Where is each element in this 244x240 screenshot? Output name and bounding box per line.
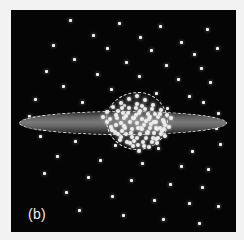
halo-star <box>92 34 95 37</box>
halo-star <box>216 47 219 50</box>
halo-star <box>34 98 37 101</box>
halo-star <box>118 22 121 25</box>
bulge-star <box>110 128 114 132</box>
bulge-star <box>105 110 109 114</box>
halo-star <box>39 135 42 138</box>
bulge-star <box>111 105 115 109</box>
bulge-star <box>146 130 150 134</box>
halo-star <box>180 165 183 168</box>
bulge-star <box>136 143 140 147</box>
bulge-star <box>130 127 134 131</box>
halo-star <box>150 49 153 52</box>
bulge-star <box>152 131 156 135</box>
bulge-star <box>142 144 146 148</box>
halo-star <box>141 162 144 165</box>
halo-star <box>188 95 191 98</box>
bulge-star <box>130 135 134 139</box>
bulge-star <box>114 113 118 117</box>
halo-star <box>125 61 128 64</box>
halo-star <box>114 144 117 147</box>
bulge-star <box>119 101 123 105</box>
halo-star <box>217 205 220 208</box>
bulge-star <box>108 117 112 121</box>
bulge-star <box>140 127 144 131</box>
halo-star <box>200 67 203 70</box>
halo-star <box>43 172 46 175</box>
bulge-star <box>169 116 173 120</box>
halo-star <box>219 143 222 146</box>
bulge-star <box>138 109 142 113</box>
halo-star <box>78 209 81 212</box>
halo-star <box>198 222 201 225</box>
sky-background: (b) <box>11 10 236 232</box>
bulge-star <box>116 132 120 136</box>
bulge-star <box>135 121 139 125</box>
bulge-star <box>150 107 154 111</box>
bulge-star <box>101 115 105 119</box>
bulge-star <box>158 112 162 116</box>
bulge-star <box>155 141 159 145</box>
halo-star <box>207 168 210 171</box>
bulge-star <box>167 125 171 129</box>
bulge-star <box>143 98 147 102</box>
halo-star <box>201 186 204 189</box>
halo-star <box>155 92 158 95</box>
bulge-star <box>147 145 151 149</box>
halo-star <box>69 19 72 22</box>
halo-star <box>193 53 196 56</box>
halo-star <box>159 25 162 28</box>
halo-star <box>217 112 220 115</box>
halo-star <box>206 28 209 31</box>
halo-star <box>96 73 99 76</box>
bulge-star <box>128 141 132 145</box>
halo-star <box>111 195 114 198</box>
bulge-star <box>144 119 148 123</box>
bulge-star <box>148 115 152 119</box>
bulge-star <box>127 106 131 110</box>
panel-label: (b) <box>28 206 46 222</box>
bulge-star <box>122 124 126 128</box>
bulge-star <box>138 132 142 136</box>
halo-star <box>65 191 68 194</box>
bulge-star <box>135 94 139 98</box>
halo-star <box>110 88 113 91</box>
bulge-star <box>134 106 138 110</box>
bulge-star <box>137 149 141 153</box>
halo-star <box>62 85 65 88</box>
bulge-star <box>152 120 156 124</box>
halo-star <box>180 41 183 44</box>
halo-star <box>162 218 165 221</box>
halo-star <box>74 140 77 143</box>
halo-star <box>130 179 133 182</box>
bulge-star <box>124 114 128 118</box>
halo-star <box>169 183 172 186</box>
halo-star <box>191 150 194 153</box>
halo-star <box>165 64 168 67</box>
halo-star <box>122 214 125 217</box>
bulge-star <box>150 140 154 144</box>
halo-star <box>202 101 205 104</box>
bulge-star <box>162 120 166 124</box>
bulge-star <box>120 106 124 110</box>
bulge-star <box>144 136 148 140</box>
halo-star <box>153 199 156 202</box>
bulge-star <box>124 132 128 136</box>
halo-star <box>106 47 109 50</box>
bulge-star <box>127 97 131 101</box>
halo-star <box>87 176 90 179</box>
halo-star <box>73 58 76 61</box>
bulge-star <box>143 107 147 111</box>
bulge-star <box>131 144 135 148</box>
halo-star <box>188 202 191 205</box>
halo-star <box>177 78 180 81</box>
figure-panel: (b) <box>0 0 244 240</box>
bulge-star <box>154 126 158 130</box>
halo-star <box>56 155 59 158</box>
bulge-star <box>118 138 122 142</box>
bulge-star <box>156 136 160 140</box>
bulge-star <box>140 104 144 108</box>
halo-star <box>157 147 160 150</box>
halo-star <box>45 70 48 73</box>
bulge-star <box>132 139 136 143</box>
bulge-star <box>114 123 118 127</box>
